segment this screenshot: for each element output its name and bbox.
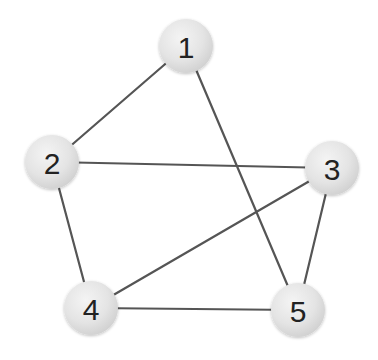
- node-3: 3: [305, 141, 359, 195]
- node-5: 5: [271, 283, 325, 337]
- node-label: 1: [178, 31, 195, 64]
- edge-1-5: [186, 46, 298, 310]
- node-1: 1: [159, 19, 213, 73]
- edge-2-3: [52, 162, 332, 168]
- node-label: 2: [44, 147, 61, 180]
- edge-4-5: [91, 308, 298, 310]
- edges-layer: [52, 46, 332, 310]
- node-label: 5: [290, 295, 307, 328]
- node-label: 3: [324, 153, 341, 186]
- node-4: 4: [64, 281, 118, 335]
- graph-diagram: 12345: [0, 0, 378, 360]
- nodes-layer: 12345: [25, 19, 359, 337]
- node-label: 4: [83, 293, 100, 326]
- node-2: 2: [25, 135, 79, 189]
